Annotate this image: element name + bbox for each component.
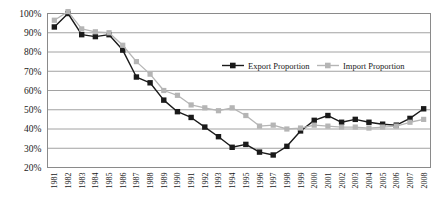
data-point-marker — [93, 29, 98, 34]
legend-item-import-proportion[interactable]: Import Proportion — [317, 61, 405, 71]
x-axis-tick-label: 1986 — [119, 173, 128, 189]
data-point-marker — [52, 24, 57, 29]
x-axis-tick-labels: 1981198219831984198519861987198819891990… — [50, 173, 428, 189]
x-axis-tick-label: 2006 — [392, 173, 401, 189]
line-chart: 100%90%80%70%60%50%40%30%20% 19811982198… — [0, 0, 438, 212]
data-point-marker — [257, 149, 262, 154]
data-point-marker — [79, 32, 84, 37]
legend-marker-swatch — [325, 63, 331, 69]
data-point-marker — [366, 120, 371, 125]
data-point-marker — [52, 18, 57, 23]
chart-container: 100%90%80%70%60%50%40%30%20% 19811982198… — [0, 0, 438, 212]
x-axis-tick-label: 2005 — [379, 173, 388, 189]
y-axis-tick-label: 20% — [24, 163, 42, 173]
x-axis-tick-label: 1988 — [146, 173, 155, 189]
x-axis-tick-label: 1993 — [214, 173, 223, 189]
data-point-marker — [380, 124, 385, 129]
chart-legend: Export ProportionImport Proportion — [222, 61, 405, 71]
data-point-marker — [161, 88, 166, 93]
data-point-marker — [134, 59, 139, 64]
legend-marker-swatch — [230, 63, 236, 69]
y-axis-tick-label: 30% — [24, 144, 42, 154]
x-axis-tick-label: 2004 — [365, 173, 374, 189]
x-axis-tick-label: 1994 — [228, 173, 237, 189]
data-point-marker — [243, 113, 248, 118]
data-point-marker — [65, 9, 70, 14]
legend-item-export-proportion[interactable]: Export Proportion — [222, 61, 310, 71]
data-point-marker — [421, 106, 426, 111]
data-point-marker — [284, 144, 289, 149]
x-axis-tick-label: 2008 — [420, 173, 429, 189]
x-axis-tick-label: 1987 — [132, 173, 141, 189]
x-axis-tick-label: 2003 — [351, 173, 360, 189]
y-axis-tick-label: 80% — [24, 47, 42, 57]
x-axis-tick-label: 1983 — [78, 173, 87, 189]
data-point-marker — [229, 145, 234, 150]
y-axis-tick-label: 70% — [24, 67, 42, 77]
x-axis-tick-label: 1989 — [160, 173, 169, 189]
x-axis-tick-label: 1999 — [297, 173, 306, 189]
data-point-marker — [257, 124, 262, 129]
x-axis-tick-label: 2007 — [406, 173, 415, 189]
legend-label: Export Proportion — [248, 61, 310, 71]
data-point-marker — [188, 115, 193, 120]
data-point-marker — [339, 124, 344, 129]
x-axis-tick-label: 2002 — [338, 173, 347, 189]
x-axis-tick-label: 1997 — [269, 173, 278, 189]
data-point-marker — [312, 118, 317, 123]
data-point-marker — [366, 125, 371, 130]
x-axis-tick-label: 1996 — [256, 173, 265, 189]
x-axis-tick-label: 1995 — [242, 173, 251, 189]
data-point-marker — [325, 113, 330, 118]
y-axis-tick-label: 100% — [19, 9, 41, 19]
data-point-marker — [394, 124, 399, 129]
data-point-marker — [147, 72, 152, 77]
y-axis-tick-labels: 100%90%80%70%60%50%40%30%20% — [19, 9, 41, 173]
data-point-marker — [175, 93, 180, 98]
y-axis-tick-label: 40% — [24, 124, 42, 134]
data-point-marker — [189, 102, 194, 107]
data-point-marker — [230, 105, 235, 110]
data-point-marker — [298, 125, 303, 130]
data-point-marker — [106, 30, 111, 35]
x-axis-tick-label: 1991 — [187, 173, 196, 189]
x-axis-tick-label: 2000 — [310, 173, 319, 189]
y-axis-tick-label: 90% — [24, 28, 42, 38]
data-point-marker — [216, 108, 221, 113]
data-point-marker — [339, 120, 344, 125]
x-axis-tick-label: 1982 — [64, 173, 73, 189]
data-point-marker — [312, 123, 317, 128]
y-axis-tick-label: 60% — [24, 86, 42, 96]
data-point-marker — [79, 26, 84, 31]
data-point-marker — [93, 34, 98, 39]
data-point-marker — [271, 123, 276, 128]
gridlines-group — [48, 33, 431, 149]
data-point-marker — [421, 117, 426, 122]
data-point-marker — [134, 74, 139, 79]
data-point-marker — [216, 134, 221, 139]
x-axis-tick-label: 2001 — [324, 173, 333, 189]
data-point-marker — [284, 126, 289, 131]
data-point-marker — [202, 124, 207, 129]
data-point-marker — [325, 124, 330, 129]
data-point-marker — [353, 117, 358, 122]
x-axis-tick-label: 1984 — [91, 173, 100, 189]
y-axis-tick-label: 50% — [24, 105, 42, 115]
data-point-marker — [175, 109, 180, 114]
x-axis-tick-label: 1990 — [173, 173, 182, 189]
x-axis-tick-label: 1998 — [283, 173, 292, 189]
data-point-marker — [147, 80, 152, 85]
data-point-marker — [161, 97, 166, 102]
x-axis-tick-label: 1992 — [201, 173, 210, 189]
data-point-marker — [353, 124, 358, 129]
data-series-group — [52, 9, 427, 158]
data-point-marker — [271, 152, 276, 157]
data-point-marker — [243, 142, 248, 147]
data-point-marker — [120, 43, 125, 48]
legend-label: Import Proportion — [343, 61, 405, 71]
x-axis-tick-label: 1985 — [105, 173, 114, 189]
x-axis-tick-label: 1981 — [50, 173, 59, 189]
data-point-marker — [202, 105, 207, 110]
data-point-marker — [407, 120, 412, 125]
